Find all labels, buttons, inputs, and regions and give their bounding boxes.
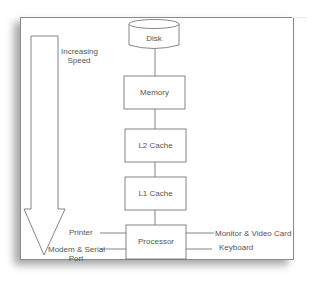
modem-label-line1: Modem & Serial [48, 245, 104, 254]
processor-label: Processor [126, 237, 186, 247]
speed-label-line2: Speed [61, 56, 97, 65]
speed-arrow [24, 36, 65, 255]
l1-cache-label: L1 Cache [125, 189, 186, 199]
memory-label: Memory [124, 88, 185, 98]
monitor-label: Monitor & Video Card [215, 229, 291, 238]
modem-label: Modem & Serial Port [48, 245, 104, 263]
modem-label-line2: Port [48, 254, 104, 263]
printer-label: Printer [69, 228, 93, 237]
disk-label: Disk [129, 34, 179, 44]
keyboard-label: Keyboard [219, 243, 253, 252]
speed-label: Increasing Speed [61, 47, 97, 65]
l2-cache-label: L2 Cache [125, 141, 186, 151]
speed-label-line1: Increasing [61, 47, 97, 56]
